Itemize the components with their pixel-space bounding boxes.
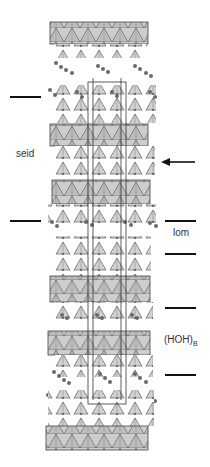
octahedral-sheet-1 — [50, 22, 148, 58]
layer-marker-right-4 — [165, 374, 196, 376]
layer-marker-left-2 — [10, 220, 41, 222]
tetrahedral-sheet-4 — [50, 236, 153, 322]
octahedral-sheet-3 — [48, 180, 156, 226]
layer-marker-right-2 — [165, 253, 196, 255]
hoh-text: (HOH) — [164, 334, 193, 345]
arrow-left-icon — [161, 156, 197, 168]
atom-row-1 — [54, 61, 153, 78]
crystal-structure-figure: seid lom (HOH)B — [0, 0, 210, 467]
lom-label: lom — [173, 228, 189, 238]
layer-marker-right-3 — [165, 307, 196, 309]
seid-label: seid — [16, 149, 34, 159]
octahedral-sheet-5 — [48, 331, 153, 377]
hoh-subscript: B — [193, 340, 198, 347]
layer-marker-right-1 — [165, 220, 196, 222]
layer-marker-left-1 — [10, 96, 41, 98]
tetrahedral-sheet-6 — [46, 390, 154, 450]
hoh-b-label: (HOH)B — [164, 335, 198, 347]
tetrahedral-sheet-2 — [50, 85, 156, 176]
